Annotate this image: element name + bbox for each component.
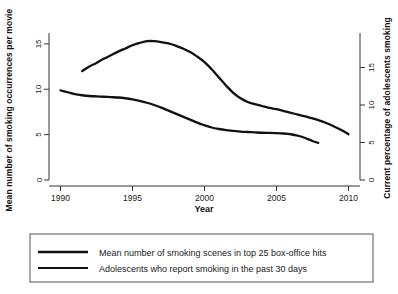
- legend-label-movie-scenes: Mean number of smoking scenes in top 25 …: [99, 248, 327, 258]
- right-tick-label: 15: [367, 63, 376, 72]
- x-axis-title: Year: [194, 204, 214, 214]
- legend-label-adolescent-smoking: Adolescents who report smoking in the pa…: [99, 264, 308, 274]
- x-tick-label: 2000: [195, 193, 214, 203]
- x-tick-label: 1990: [51, 193, 70, 203]
- legend-box: [30, 234, 373, 282]
- left-tick-label: 0: [35, 177, 44, 182]
- right-tick-label: 10: [367, 100, 376, 109]
- x-tick-label: 2005: [267, 193, 286, 203]
- right-tick-label: 0: [367, 177, 376, 182]
- smoking-trends-line-chart: 051015 Mean number of smoking occurrence…: [0, 0, 398, 294]
- x-tick-label: 1995: [123, 193, 142, 203]
- left-tick-label: 5: [35, 132, 44, 137]
- right-tick-label: 5: [367, 140, 376, 145]
- left-tick-label: 15: [35, 39, 44, 48]
- left-tick-label: 10: [35, 84, 44, 93]
- x-tick-label: 2010: [339, 193, 358, 203]
- right-axis-title: Current percentage of adolescents smokin…: [382, 17, 392, 199]
- legend: Mean number of smoking scenes in top 25 …: [30, 234, 373, 282]
- left-axis-title: Mean number of smoking occurrences per m…: [4, 8, 14, 211]
